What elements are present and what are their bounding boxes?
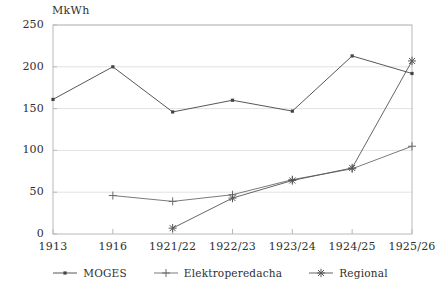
legend-item-regional[interactable]: Regional xyxy=(308,267,388,279)
series-moges xyxy=(51,54,413,113)
marker-dot xyxy=(410,72,413,75)
legend-label: Regional xyxy=(339,267,388,279)
marker-dot xyxy=(51,98,54,101)
chart-container: MkWh 050100150200250 191319161921/221922… xyxy=(0,0,440,288)
legend-marker-asterisk-icon xyxy=(308,267,334,279)
legend-label: Elektroperedacha xyxy=(184,267,282,279)
marker-dot xyxy=(111,65,114,68)
chart-legend: MOGESElektroperedachaRegional xyxy=(0,262,440,284)
series-regional xyxy=(169,57,416,233)
legend-item-moges[interactable]: MOGES xyxy=(52,267,127,279)
plot-frame xyxy=(53,25,412,234)
plot-area xyxy=(0,0,440,288)
legend-marker-plus-icon xyxy=(153,267,179,279)
marker-dot xyxy=(64,271,67,274)
marker-dot xyxy=(231,99,234,102)
legend-item-elektroperedacha[interactable]: Elektroperedacha xyxy=(153,267,282,279)
legend-label: MOGES xyxy=(83,267,127,279)
marker-dot xyxy=(171,110,174,113)
legend-marker-dot-icon xyxy=(52,267,78,279)
series-line xyxy=(173,61,412,228)
marker-dot xyxy=(351,54,354,57)
marker-dot xyxy=(291,110,294,113)
series-line xyxy=(53,56,412,112)
series-elektroperedacha xyxy=(109,142,416,205)
series-line xyxy=(113,146,412,201)
